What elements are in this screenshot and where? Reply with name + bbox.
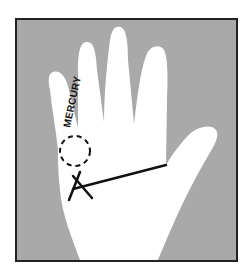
palm-diagram: MERCURY — [0, 0, 251, 276]
